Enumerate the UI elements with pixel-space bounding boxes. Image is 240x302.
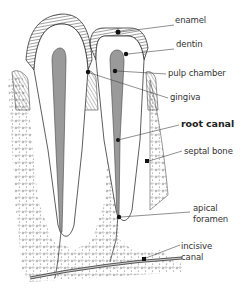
label-apical-foramen-line2: foramen [193, 215, 228, 224]
label-incisive-canal-line1: incisive [181, 242, 212, 251]
enamel-marker [116, 30, 121, 35]
apical-foramen-marker [117, 215, 121, 219]
gingiva-right [146, 72, 158, 110]
label-enamel: enamel [175, 16, 206, 25]
label-incisive-canal-line2: canal [181, 253, 203, 262]
septal-bone-marker [145, 159, 149, 163]
label-root-canal: root canal [181, 119, 234, 129]
dentin-marker [124, 52, 128, 56]
label-dentin: dentin [176, 40, 203, 49]
label-gingiva: gingiva [170, 93, 200, 102]
gingiva-marker [86, 70, 90, 74]
label-pulp-chamber: pulp chamber [168, 69, 226, 78]
pulp-chamber-marker [113, 69, 117, 73]
label-apical-foramen-line1: apical [193, 204, 218, 213]
incisive-canal-marker [142, 257, 146, 261]
label-septal-bone: septal bone [184, 147, 233, 156]
tooth-diagram: enamel dentin pulp chamber gingiva root … [0, 0, 240, 302]
